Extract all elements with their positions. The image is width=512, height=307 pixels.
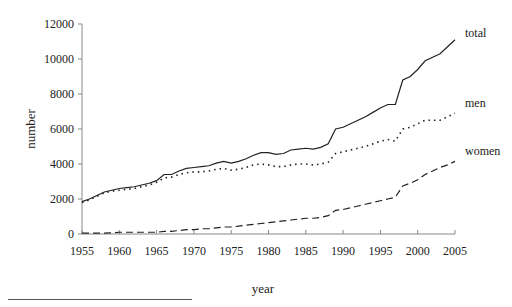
x-tick-label: 1995 xyxy=(368,244,392,258)
line-chart: 0200040006000800010000120001955196019651… xyxy=(0,0,512,307)
y-tick-label: 10000 xyxy=(44,52,74,66)
series-label-total: total xyxy=(465,26,487,40)
x-axis-title: year xyxy=(252,281,275,296)
series-line-total xyxy=(82,40,455,202)
x-tick-label: 1965 xyxy=(145,244,169,258)
footnote-divider xyxy=(8,299,192,300)
y-tick-label: 8000 xyxy=(50,87,74,101)
x-tick-label: 1980 xyxy=(257,244,281,258)
x-tick-label: 2005 xyxy=(443,244,467,258)
x-tick-label: 1975 xyxy=(219,244,243,258)
x-tick-label: 1955 xyxy=(70,244,94,258)
y-tick-label: 0 xyxy=(68,227,74,241)
y-tick-label: 12000 xyxy=(44,17,74,31)
axes: 0200040006000800010000120001955196019651… xyxy=(44,17,467,258)
y-axis-title: number xyxy=(23,108,38,148)
y-tick-label: 4000 xyxy=(50,157,74,171)
x-tick-label: 1990 xyxy=(331,244,355,258)
plot-area: totalmenwomen xyxy=(82,26,500,233)
series-line-men xyxy=(82,113,455,202)
x-tick-label: 1970 xyxy=(182,244,206,258)
series-label-women: women xyxy=(465,144,500,158)
y-tick-label: 2000 xyxy=(50,192,74,206)
series-label-men: men xyxy=(465,96,486,110)
x-tick-label: 2000 xyxy=(406,244,430,258)
x-tick-label: 1985 xyxy=(294,244,318,258)
x-tick-label: 1960 xyxy=(107,244,131,258)
series-line-women xyxy=(82,161,455,233)
y-tick-label: 6000 xyxy=(50,122,74,136)
